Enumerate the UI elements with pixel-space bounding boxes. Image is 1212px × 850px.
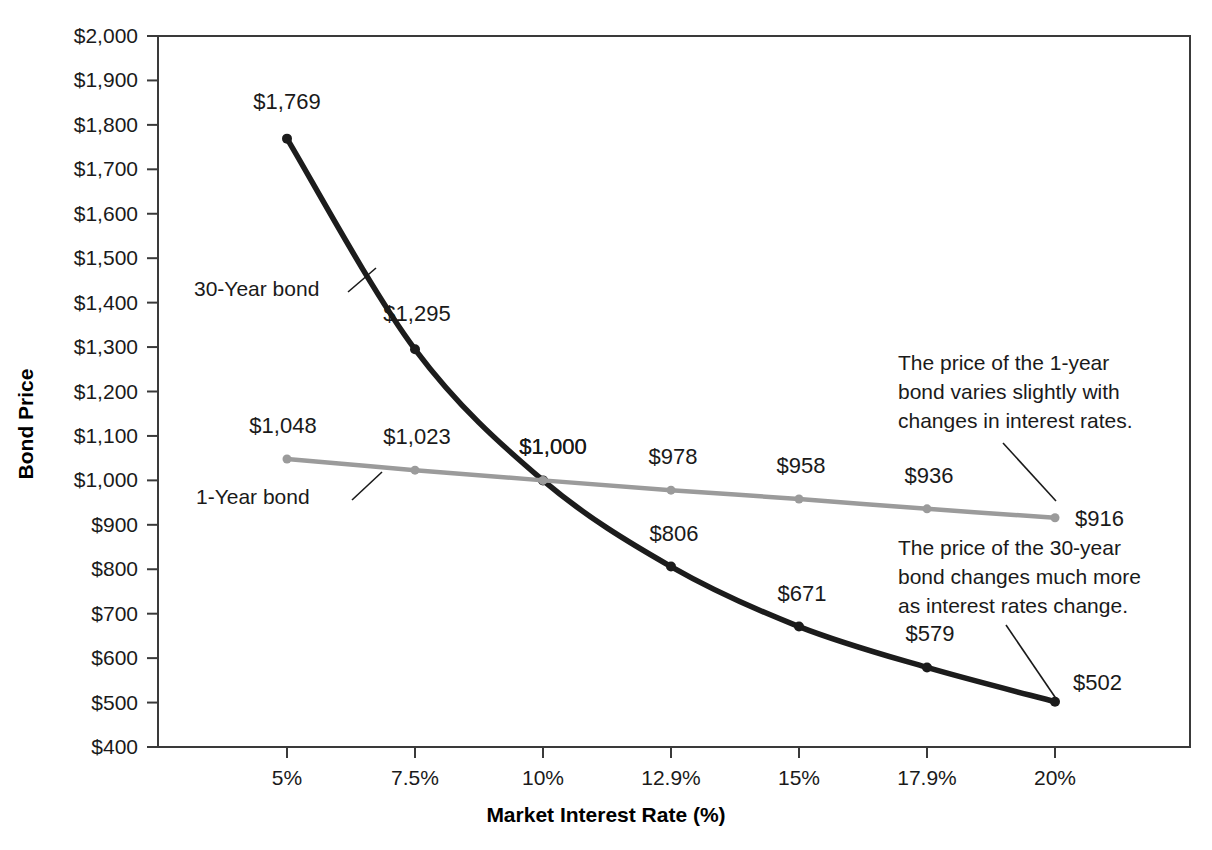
y-tick-label: $1,800 <box>74 113 138 136</box>
y-tick-label: $1,900 <box>74 68 138 91</box>
data-point-marker <box>283 455 292 464</box>
data-point-marker <box>410 344 420 354</box>
y-tick-label: $1,200 <box>74 380 138 403</box>
data-point-label: $936 <box>905 463 954 488</box>
x-tick-label: 12.9% <box>641 766 701 789</box>
data-point-label: $978 <box>649 444 698 469</box>
series-callout-1-year: 1-Year bond <box>196 485 310 508</box>
data-point-marker <box>1051 513 1060 522</box>
y-tick-label: $800 <box>91 557 138 580</box>
y-tick-label: $1,600 <box>74 202 138 225</box>
data-point-marker <box>795 495 804 504</box>
x-tick-label: 7.5% <box>391 766 439 789</box>
data-point-label: $502 <box>1073 670 1122 695</box>
data-point-label: $1,000 <box>519 434 586 459</box>
data-point-label: $579 <box>906 621 955 646</box>
data-point-marker <box>794 622 804 632</box>
data-point-marker <box>539 476 548 485</box>
y-tick-label: $600 <box>91 646 138 669</box>
x-tick-label: 17.9% <box>897 766 957 789</box>
data-point-label: $1,048 <box>249 413 316 438</box>
data-point-label: $671 <box>778 581 827 606</box>
y-tick-label: $1,400 <box>74 291 138 314</box>
annotation-one-year-line-3: changes in interest rates. <box>898 409 1133 432</box>
x-tick-label: 10% <box>522 766 564 789</box>
y-tick-label: $900 <box>91 513 138 536</box>
annotation-thirty-year-line-1: The price of the 30-year <box>898 536 1121 559</box>
chart-canvas: $2,000$1,900$1,800$1,700$1,600$1,500$1,4… <box>0 0 1212 850</box>
data-point-label: $958 <box>777 453 826 478</box>
data-point-marker <box>411 466 420 475</box>
y-axis-title: Bond Price <box>14 369 37 480</box>
annotation-thirty-year-line-2: bond changes much more <box>898 565 1141 588</box>
y-tick-label: $1,300 <box>74 335 138 358</box>
y-tick-label: $1,100 <box>74 424 138 447</box>
data-point-label: $1,295 <box>383 301 450 326</box>
annotation-thirty-year-line-3: as interest rates change. <box>898 594 1128 617</box>
y-tick-label: $1,500 <box>74 246 138 269</box>
series-callout-30-year: 30-Year bond <box>194 277 319 300</box>
data-point-marker <box>667 486 676 495</box>
y-tick-label: $2,000 <box>74 24 138 47</box>
data-point-marker <box>923 504 932 513</box>
bond-price-chart: $2,000$1,900$1,800$1,700$1,600$1,500$1,4… <box>0 0 1212 850</box>
annotation-one-year-line-2: bond varies slightly with <box>898 380 1120 403</box>
x-tick-label: 5% <box>272 766 302 789</box>
data-point-label: $916 <box>1075 506 1124 531</box>
data-point-label: $806 <box>650 521 699 546</box>
data-point-marker <box>666 562 676 572</box>
data-point-label: $1,769 <box>253 89 320 114</box>
data-point-marker <box>922 662 932 672</box>
y-tick-label: $1,700 <box>74 157 138 180</box>
y-tick-label: $1,000 <box>74 468 138 491</box>
y-tick-label: $500 <box>91 691 138 714</box>
data-point-marker <box>282 134 292 144</box>
annotation-one-year-line-1: The price of the 1-year <box>898 351 1109 374</box>
data-point-label: $1,023 <box>383 424 450 449</box>
y-tick-label: $700 <box>91 602 138 625</box>
y-tick-label: $400 <box>91 735 138 758</box>
x-axis-title: Market Interest Rate (%) <box>486 803 725 826</box>
x-tick-label: 15% <box>778 766 820 789</box>
x-tick-label: 20% <box>1034 766 1076 789</box>
